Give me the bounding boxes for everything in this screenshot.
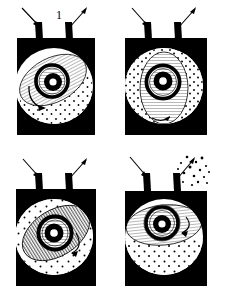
exhaust-arrow-1 <box>69 7 87 28</box>
panel-stage-3: 3 <box>0 149 112 298</box>
core-4 <box>144 205 180 241</box>
panel-1-number: 1 <box>56 9 62 21</box>
exhaust-arrow-4 <box>177 157 195 179</box>
panel-3-graphic <box>0 149 112 298</box>
core-2 <box>145 64 181 100</box>
exhaust-arrow-3 <box>69 158 87 179</box>
four-panel-figure: 1 <box>0 0 225 298</box>
panel-4-graphic <box>112 149 224 298</box>
panel-stage-4: 4 <box>112 149 224 298</box>
intake-arrow-3 <box>23 159 40 179</box>
panel-2-graphic <box>112 0 224 149</box>
tube-group-4 <box>143 173 181 191</box>
core-3 <box>37 215 73 251</box>
tube-group-2 <box>144 22 182 40</box>
intake-arrow-1 <box>22 8 40 28</box>
tube-group-3 <box>35 173 73 191</box>
core-1 <box>35 64 69 98</box>
panel-1-graphic <box>0 0 112 149</box>
intake-arrow-4 <box>130 157 148 179</box>
intake-arrow-2 <box>132 8 149 28</box>
exhaust-arrow-2 <box>178 7 196 28</box>
panel-stage-1: 1 <box>0 0 112 149</box>
tube-group-1 <box>35 22 73 40</box>
panel-stage-2: 2 <box>112 0 224 149</box>
